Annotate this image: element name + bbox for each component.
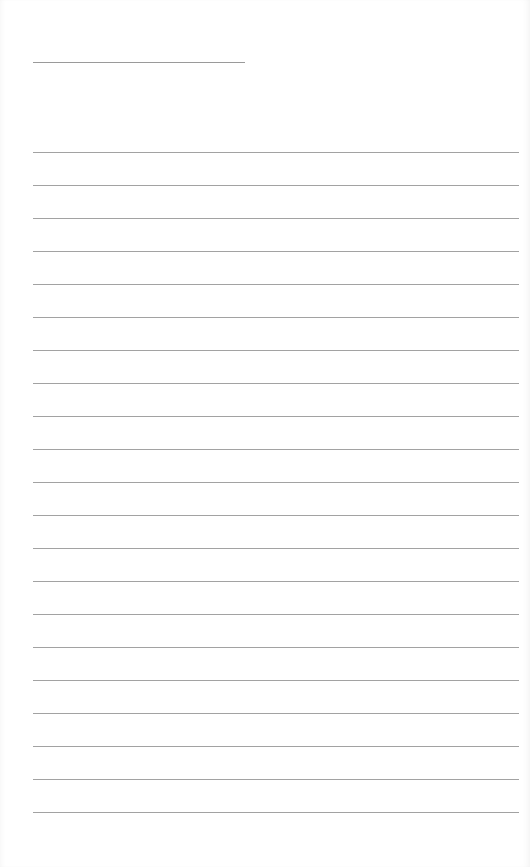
ruled-line [33,383,519,416]
ruled-line [33,680,519,713]
title-line [33,62,245,63]
ruled-line [33,515,519,548]
ruled-line [33,482,519,515]
ruled-line [33,152,519,185]
ruled-line [33,581,519,614]
ruled-line [33,449,519,482]
ruled-line [33,713,519,746]
ruled-line [33,317,519,350]
ruled-line [33,548,519,581]
ruled-line [33,185,519,218]
ruled-line [33,416,519,449]
ruled-line [33,218,519,251]
lined-paper-page [0,0,530,867]
ruled-lines [33,152,519,845]
ruled-line [33,779,519,812]
ruled-line [33,350,519,383]
ruled-line [33,251,519,284]
ruled-line [33,647,519,680]
ruled-line [33,284,519,317]
ruled-line [33,746,519,779]
ruled-line [33,614,519,647]
ruled-line [33,812,519,845]
